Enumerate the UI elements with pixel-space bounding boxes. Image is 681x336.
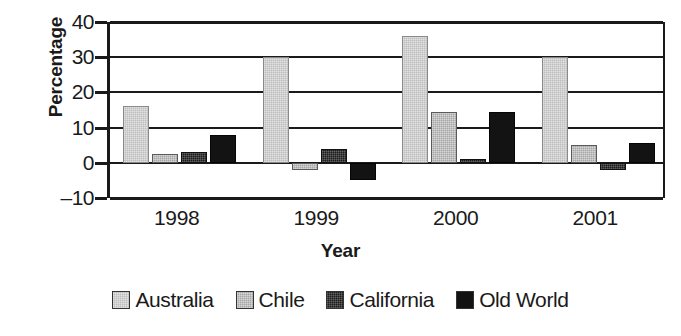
bar [350, 163, 376, 181]
y-axis-tick-label: 40 [32, 11, 94, 32]
bar [292, 163, 318, 170]
bar [181, 152, 207, 163]
y-axis-tick-label: 0 [32, 152, 94, 173]
legend-label: Chile [259, 288, 305, 312]
bar [321, 149, 347, 163]
legend-label: Australia [135, 288, 213, 312]
bar [263, 57, 289, 163]
y-axis-tick-mark [95, 162, 107, 165]
bar [431, 112, 457, 163]
bar [123, 106, 149, 162]
gridline [110, 127, 663, 129]
plot-area [107, 22, 665, 198]
legend-swatch-icon [112, 291, 130, 309]
bar [460, 159, 486, 163]
legend-item[interactable]: Australia [112, 288, 213, 312]
y-axis-tick-label: 10 [32, 117, 94, 138]
y-axis-tick-mark [95, 91, 107, 94]
bar [629, 143, 655, 162]
bar [542, 57, 568, 163]
legend-swatch-icon [236, 291, 254, 309]
bar [489, 112, 515, 163]
y-axis-tick-mark [95, 127, 107, 130]
legend-swatch-icon [456, 291, 474, 309]
gridline [110, 197, 663, 200]
chart-legend: AustraliaChileCaliforniaOld World [0, 288, 681, 312]
y-axis-tick-mark [95, 56, 107, 59]
y-axis-tick-label: 30 [32, 46, 94, 67]
x-axis-tick-label: 2000 [396, 206, 516, 230]
x-axis-tick-label: 2001 [535, 206, 655, 230]
y-axis-tick-label: 20 [32, 81, 94, 102]
bar [600, 163, 626, 170]
y-axis-tick-labels: 403020100–10 [32, 0, 94, 336]
bar-chart: Percentage 403020100–10 1998199920002001… [0, 0, 681, 336]
gridline [110, 56, 663, 58]
legend-item[interactable]: Chile [236, 288, 305, 312]
legend-item[interactable]: California [326, 288, 434, 312]
gridline [110, 21, 663, 24]
bar [152, 154, 178, 163]
x-axis-title: Year [0, 240, 681, 262]
bar [571, 145, 597, 163]
y-axis-tick-mark [95, 21, 107, 24]
legend-swatch-icon [326, 291, 344, 309]
bar [402, 36, 428, 163]
y-axis-tick-label: –10 [32, 187, 94, 208]
legend-item[interactable]: Old World [456, 288, 568, 312]
y-axis-tick-mark [95, 197, 107, 200]
legend-label: Old World [479, 288, 568, 312]
legend-label: California [349, 288, 434, 312]
x-axis-tick-label: 1998 [117, 206, 237, 230]
bar [210, 135, 236, 163]
x-axis-tick-label: 1999 [256, 206, 376, 230]
gridline [110, 91, 663, 93]
